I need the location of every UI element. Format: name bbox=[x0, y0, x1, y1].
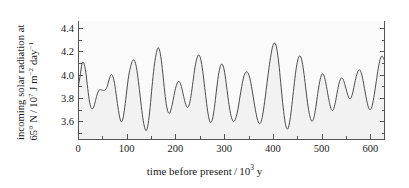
y-axis-tick-minor bbox=[382, 86, 385, 87]
y-axis-tick-label: 3.8 bbox=[61, 93, 74, 104]
x-axis-tick-label: 0 bbox=[75, 143, 80, 154]
y-axis-label-exponent-minus1: −1 bbox=[27, 41, 35, 49]
insolation-chart-figure: incoming solar radiation at 65° N / 107 … bbox=[0, 0, 409, 188]
x-axis-tick-minor bbox=[346, 136, 347, 139]
x-axis-label-unit: y bbox=[254, 165, 262, 177]
y-axis-tick-minor bbox=[382, 63, 385, 64]
y-axis-tick-minor bbox=[79, 40, 82, 41]
x-axis-tick-major bbox=[78, 134, 79, 139]
x-axis-tick-label: 300 bbox=[216, 143, 232, 154]
y-axis-tick-major bbox=[380, 98, 384, 99]
y-axis-label-exponent-minus2: −2 bbox=[27, 67, 35, 75]
y-axis-tick-minor bbox=[382, 110, 385, 111]
y-axis-label-line-1: incoming solar radiation at bbox=[15, 24, 26, 140]
y-axis-tick-label: 4.2 bbox=[61, 46, 74, 57]
x-axis-tick-label: 600 bbox=[363, 143, 379, 154]
y-axis-tick-major bbox=[380, 28, 384, 29]
y-axis-tick-label: 4.0 bbox=[61, 69, 74, 80]
y-axis-tick-minor bbox=[79, 86, 82, 87]
y-axis-tick-minor bbox=[79, 133, 82, 134]
y-axis-tick-major bbox=[380, 75, 384, 76]
y-axis-tick-major bbox=[79, 51, 83, 52]
x-axis-tick-label: 200 bbox=[168, 143, 184, 154]
x-axis-tick-major bbox=[127, 134, 128, 139]
x-axis-label-text: time before present / 10 bbox=[147, 165, 250, 177]
y-axis-label-units-day: day bbox=[28, 49, 39, 67]
y-axis-right-line bbox=[384, 21, 385, 140]
x-axis-tick-label: 100 bbox=[119, 143, 135, 154]
y-axis-label-line-2: 65° N / 107 J m−2 day−1 bbox=[27, 41, 40, 140]
x-axis-tick-minor bbox=[297, 136, 298, 139]
y-axis-label-units-joule-metre: J m bbox=[28, 75, 39, 93]
x-axis-label: time before present / 103 y bbox=[0, 163, 409, 177]
x-axis-tick-major bbox=[224, 134, 225, 139]
y-axis-tick-major bbox=[79, 28, 83, 29]
x-axis-tick-minor bbox=[249, 136, 250, 139]
y-axis-label-units-prefix: 65° N / 10 bbox=[28, 96, 39, 140]
y-axis-tick-major bbox=[380, 51, 384, 52]
x-axis-line bbox=[78, 139, 385, 140]
series-fill-area bbox=[78, 43, 384, 140]
y-axis-tick-minor bbox=[382, 133, 385, 134]
x-axis-tick-label: 500 bbox=[314, 143, 330, 154]
y-axis-tick-label: 4.4 bbox=[61, 23, 74, 34]
y-axis-tick-major bbox=[79, 98, 83, 99]
x-axis-tick-major bbox=[322, 134, 323, 139]
x-axis-tick-major bbox=[273, 134, 274, 139]
y-axis-tick-minor bbox=[79, 110, 82, 111]
x-axis-tick-minor bbox=[151, 136, 152, 139]
y-axis-tick-label: 3.6 bbox=[61, 116, 74, 127]
insolation-series-line bbox=[78, 21, 385, 140]
x-axis-tick-label: 400 bbox=[265, 143, 281, 154]
x-axis-tick-minor bbox=[102, 136, 103, 139]
y-axis-tick-minor bbox=[79, 63, 82, 64]
x-axis-tick-major bbox=[370, 134, 371, 139]
x-axis-tick-minor bbox=[200, 136, 201, 139]
y-axis-tick-major bbox=[79, 75, 83, 76]
y-axis-tick-major bbox=[380, 121, 384, 122]
plot-area: 3.63.84.04.24.4 0100200300400500600 bbox=[78, 21, 385, 140]
y-axis-tick-major bbox=[79, 121, 83, 122]
y-axis-label: incoming solar radiation at 65° N / 107 … bbox=[8, 0, 48, 148]
x-axis-tick-major bbox=[175, 134, 176, 139]
y-axis-tick-minor bbox=[382, 40, 385, 41]
